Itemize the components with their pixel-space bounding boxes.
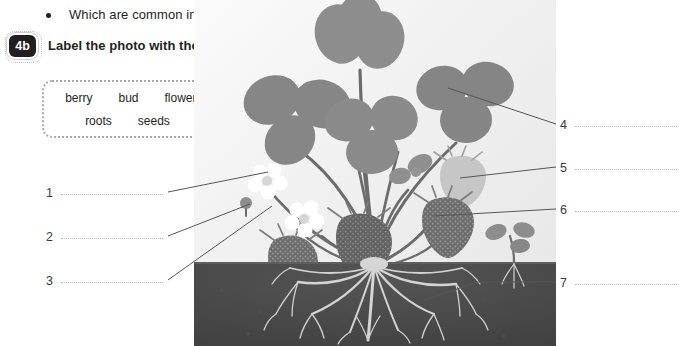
task-number-badge: 4b: [9, 35, 36, 57]
word-bud: bud: [118, 91, 138, 105]
answer-line-3[interactable]: 3: [46, 274, 163, 288]
answer-field-6[interactable]: [575, 210, 677, 212]
answer-field-5[interactable]: [575, 168, 677, 170]
answer-line-4[interactable]: 4: [560, 118, 677, 132]
answer-field-2[interactable]: [61, 237, 163, 239]
answer-field-1[interactable]: [61, 193, 163, 195]
strawberry-plant-photo: [194, 0, 556, 346]
answer-number-6: 6: [560, 203, 571, 217]
answer-number-5: 5: [560, 161, 571, 175]
answer-line-7[interactable]: 7: [560, 276, 677, 290]
answer-field-7[interactable]: [575, 283, 677, 285]
answer-line-6[interactable]: 6: [560, 203, 677, 217]
worksheet-page: Which are common in tropical rainforest …: [0, 0, 681, 346]
answer-number-4: 4: [560, 118, 571, 132]
answer-field-3[interactable]: [61, 281, 163, 283]
answer-line-5[interactable]: 5: [560, 161, 677, 175]
answer-line-2[interactable]: 2: [46, 230, 163, 244]
answer-number-3: 3: [46, 274, 57, 288]
answer-number-2: 2: [46, 230, 57, 244]
answer-number-7: 7: [560, 276, 571, 290]
word-seeds: seeds: [138, 114, 170, 128]
answer-field-4[interactable]: [575, 125, 677, 127]
answer-line-1[interactable]: 1: [46, 186, 163, 200]
answer-number-1: 1: [46, 186, 57, 200]
word-berry: berry: [65, 91, 92, 105]
word-roots: roots: [85, 114, 112, 128]
bullet-dot-icon: [46, 13, 51, 18]
word-flower: flower: [165, 91, 197, 105]
bud-small: [411, 167, 421, 177]
